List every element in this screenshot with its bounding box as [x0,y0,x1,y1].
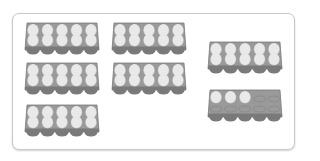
egg-carton-graphic [110,60,188,96]
egg [211,53,222,65]
egg-carton-graphic [23,102,101,138]
egg-carton [110,60,188,96]
egg [57,116,68,128]
egg-carton [110,20,188,56]
egg [42,74,53,86]
egg [158,34,169,46]
egg-carton-graphic [110,20,188,56]
carton-rim [25,129,99,133]
egg [71,74,82,86]
carton-rim [112,87,186,91]
egg-carton [23,60,101,96]
egg [240,53,251,65]
egg [254,53,265,65]
egg [42,34,53,46]
egg-carton [206,39,284,75]
egg [173,74,184,86]
egg [86,116,97,128]
carton-rim [25,87,99,91]
egg [129,74,140,86]
egg [173,34,184,46]
egg-carton [23,20,101,56]
carton-rim [112,47,186,51]
egg [269,53,280,65]
egg [144,34,155,46]
egg [86,34,97,46]
egg [115,34,126,46]
egg [211,91,222,103]
egg-carton-graphic [206,39,284,75]
egg [28,34,39,46]
egg [57,34,68,46]
carton-rim [208,114,282,118]
egg [42,116,53,128]
egg [158,74,169,86]
carton-rim [25,47,99,51]
egg-carton [23,102,101,138]
egg [240,91,251,103]
egg [28,74,39,86]
egg [71,34,82,46]
egg [57,74,68,86]
egg [225,53,236,65]
egg-carton-graphic [206,87,284,123]
egg-carton [206,87,284,123]
egg-carton-graphic [23,20,101,56]
egg-carton-graphic [23,60,101,96]
egg [71,116,82,128]
egg [86,74,97,86]
egg [129,34,140,46]
egg [28,116,39,128]
egg [115,74,126,86]
egg [225,91,236,103]
carton-rim [208,66,282,70]
egg [144,74,155,86]
